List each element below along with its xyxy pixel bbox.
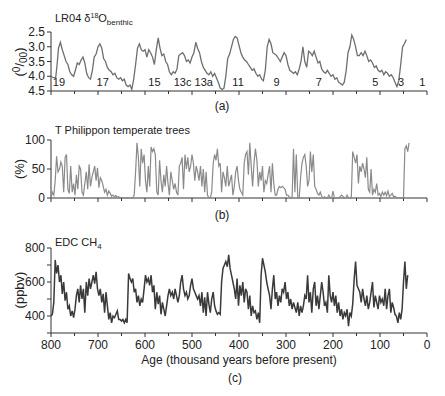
figure-canvas: LR04 δ18Obenthic (0/00) 2.53.03.54.04.5 … [0,0,445,396]
svg-text:4.5: 4.5 [28,84,45,98]
svg-text:50: 50 [32,162,46,176]
svg-text:5: 5 [372,76,378,88]
svg-text:100: 100 [25,133,45,147]
svg-text:11: 11 [232,76,243,88]
panel-c: EDC CH4 (ppbv) 400600800 800700600500400… [12,236,431,385]
svg-text:13a: 13a [195,76,214,88]
svg-text:3.0: 3.0 [28,40,45,54]
svg-text:600: 600 [135,338,155,352]
panel-a-x-axis [51,91,427,95]
svg-text:0: 0 [38,191,45,205]
svg-text:300: 300 [276,338,296,352]
panel-b-x-axis [51,198,427,202]
x-axis-title: Age (thousand years before present) [141,353,336,367]
svg-text:200: 200 [323,338,343,352]
svg-text:2.5: 2.5 [28,25,45,39]
svg-text:400: 400 [25,309,45,323]
svg-text:1: 1 [419,76,425,88]
panel-a-y-axis: 2.53.03.54.04.5 [28,25,51,98]
panel-a-title: LR04 δ18Obenthic [55,12,133,27]
panel-a-label: (a) [215,99,230,113]
svg-text:100: 100 [370,338,390,352]
panel-b-trees-line [51,143,409,198]
svg-text:4.0: 4.0 [28,69,45,83]
panel-b-ylabel: (%) [12,159,27,179]
svg-text:800: 800 [25,241,45,255]
svg-text:17: 17 [97,76,109,88]
panel-c-y-axis: 400600800 [25,241,51,333]
svg-text:600: 600 [25,275,45,289]
svg-text:(0/00): (0/00) [11,48,29,77]
svg-text:800: 800 [41,338,61,352]
svg-text:7: 7 [316,76,322,88]
svg-text:3: 3 [398,76,404,88]
panel-a-stage-labels: 19171513c13a1197531 [53,76,425,88]
panel-c-ch4-line [51,255,408,326]
panel-b-label: (b) [215,208,230,222]
svg-text:15: 15 [148,76,160,88]
svg-text:19: 19 [53,76,65,88]
svg-text:400: 400 [229,338,249,352]
svg-text:500: 500 [182,338,202,352]
panel-c-label: (c) [228,371,242,385]
panel-b-y-axis: 100500 [25,133,51,205]
panel-a: LR04 δ18Obenthic (0/00) 2.53.03.54.04.5 … [11,12,427,113]
panel-b-title: T Philippon temperate trees [55,124,190,136]
svg-text:13c: 13c [174,76,192,88]
svg-text:3.5: 3.5 [28,55,45,69]
panel-a-ylabel: (0/00) [11,48,29,77]
svg-text:0: 0 [424,338,431,352]
panel-c-x-axis: 8007006005004003002001000 [41,333,431,352]
svg-text:700: 700 [88,338,108,352]
svg-text:9: 9 [274,76,280,88]
panel-c-title: EDC CH4 [55,236,102,251]
panel-b: T Philippon temperate trees (%) 100500 (… [12,124,427,222]
